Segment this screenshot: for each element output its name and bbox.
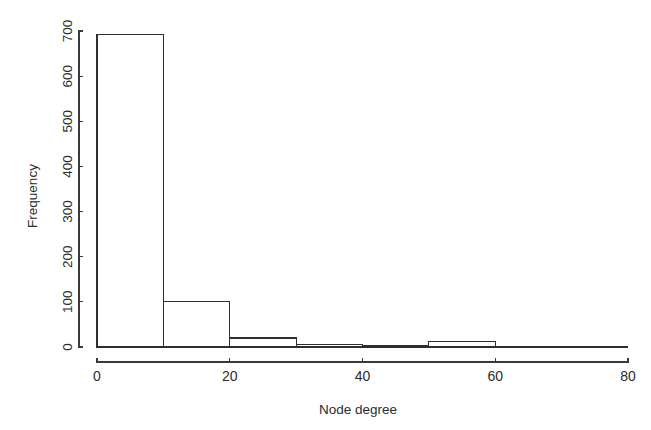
plot-canvas: 0100200300400500600700 Frequency 0204060… [0,0,651,430]
y-axis-tick-label-0: 0 [60,343,75,351]
x-axis-tick-label-20: 20 [222,368,238,384]
y-axis-tick-labels: 0100200300400500600700 [60,20,75,351]
y-axis-tick-label-100: 100 [60,291,75,314]
x-axis-tick-label-40: 40 [355,368,371,384]
bar-rect [163,301,229,347]
x-axis [97,358,628,362]
y-axis-title: Frequency [25,164,40,228]
x-axis-tick-labels: 020406080 [93,368,636,384]
x-axis-tick-label-0: 0 [93,368,101,384]
bar-rect [97,34,163,347]
x-axis-tick-label-60: 60 [487,368,503,384]
y-axis-spine [79,31,83,347]
histogram-bar [97,34,163,347]
histogram-bar [163,301,229,347]
x-axis-title: Node degree [319,402,397,417]
histogram-bar [429,341,495,347]
bar-rect [429,341,495,347]
y-axis-tick-label-400: 400 [60,155,75,178]
histogram-bar [230,338,296,347]
y-axis-tick-label-300: 300 [60,200,75,223]
y-axis [79,31,83,347]
histogram-figure: 0100200300400500600700 Frequency 0204060… [0,0,651,430]
y-axis-tick-label-200: 200 [60,245,75,268]
histogram-bars [97,34,628,347]
y-axis-tick-label-500: 500 [60,110,75,133]
bar-rect [230,338,296,347]
y-axis-tick-label-600: 600 [60,65,75,88]
x-axis-tick-label-80: 80 [620,368,636,384]
y-axis-tick-label-700: 700 [60,20,75,43]
